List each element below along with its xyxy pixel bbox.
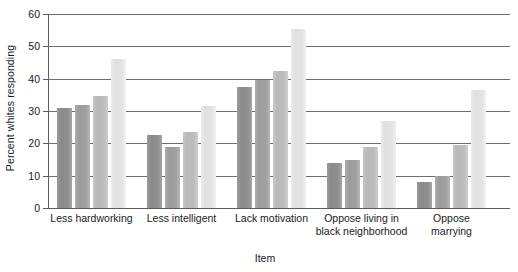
y-tick-label-20: 20 <box>14 138 40 149</box>
y-tick-label-30: 30 <box>14 106 40 117</box>
bar-g5-s1 <box>417 182 432 208</box>
bar-g2-s3 <box>183 132 198 208</box>
bar-g4-s2 <box>345 160 360 209</box>
y-tick-label-10: 10 <box>14 171 40 182</box>
y-tick-label-60: 60 <box>14 9 40 20</box>
x-axis-baseline <box>48 208 510 209</box>
bar-g1-s2 <box>75 105 90 208</box>
bar-g3-s3 <box>273 71 288 208</box>
bar-g5-s4 <box>471 90 486 208</box>
bar-g2-s2 <box>165 147 180 208</box>
y-tick-label-40: 40 <box>14 74 40 85</box>
bar-g3-s4 <box>291 29 306 208</box>
bar-g5-s2 <box>435 176 450 208</box>
bar-g1-s4 <box>111 59 126 208</box>
bar-g2-s1 <box>147 135 162 208</box>
bar-g1-s3 <box>93 96 108 208</box>
bar-g4-s3 <box>363 147 378 208</box>
category-label-5: Opposemarrying <box>392 212 512 237</box>
bar-g3-s1 <box>237 87 252 208</box>
gridline-50 <box>48 46 510 47</box>
y-tick-mark-0 <box>43 208 48 209</box>
gridline-60 <box>48 14 510 15</box>
bar-g5-s3 <box>453 145 468 208</box>
bar-chart: Percent whites responding 0102030405060 … <box>0 0 518 272</box>
bar-g3-s2 <box>255 80 270 208</box>
x-axis-title: Item <box>0 252 518 264</box>
bar-g4-s4 <box>381 121 396 208</box>
bar-g1-s1 <box>57 108 72 208</box>
y-tick-label-50: 50 <box>14 41 40 52</box>
bar-g4-s1 <box>327 163 342 208</box>
plot-area <box>48 14 510 208</box>
bar-g2-s4 <box>201 106 216 208</box>
